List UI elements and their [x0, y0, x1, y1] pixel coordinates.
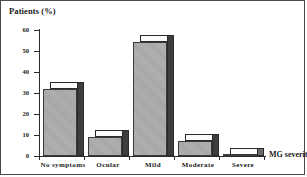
y-tick	[34, 135, 39, 136]
bar-side-face	[122, 130, 129, 156]
x-tick	[174, 156, 175, 160]
x-category-label-moderate: Moderate	[182, 161, 214, 169]
bar-side-face	[167, 35, 174, 156]
bar-moderate	[178, 134, 212, 156]
x-category-label-mild: Mild	[145, 161, 161, 169]
bar-front-face	[178, 141, 212, 156]
x-tick	[264, 156, 265, 160]
y-tick-label: 0	[13, 153, 29, 159]
bar-front-face	[133, 42, 167, 156]
y-tick	[34, 93, 39, 94]
bar-no-symptoms	[43, 82, 77, 156]
x-tick	[129, 156, 130, 160]
bar-front-face	[43, 89, 77, 156]
y-tick-label: 30	[13, 90, 29, 96]
chart-figure: Patients (%) 0 10 20 30 40 50 60	[0, 0, 305, 175]
y-tick-label: 10	[13, 132, 29, 138]
y-tick	[34, 30, 39, 31]
y-tick	[34, 72, 39, 73]
y-tick-label: 40	[13, 69, 29, 75]
bar-front-face	[223, 154, 257, 156]
x-tick	[84, 156, 85, 160]
x-category-label-severe: Severe	[232, 161, 254, 169]
bar-side-face	[257, 148, 264, 156]
y-axis-line	[39, 29, 40, 157]
plot-area: 0 10 20 30 40 50 60	[1, 1, 306, 176]
y-tick	[34, 114, 39, 115]
x-tick	[219, 156, 220, 160]
x-axis-line	[39, 156, 266, 157]
y-tick-label: 50	[13, 48, 29, 54]
x-axis-title: MG severity	[269, 150, 307, 159]
x-tick	[39, 156, 40, 160]
bar-ocular	[88, 130, 122, 156]
x-category-label-ocular: Ocular	[96, 161, 119, 169]
bar-side-face	[212, 134, 219, 156]
y-tick	[34, 51, 39, 52]
bar-front-face	[88, 137, 122, 156]
bar-mild	[133, 35, 167, 156]
y-tick-label: 20	[13, 111, 29, 117]
bar-severe	[223, 148, 257, 156]
y-tick-label: 60	[13, 27, 29, 33]
x-category-label-no-symptoms: No symptoms	[40, 161, 85, 169]
bar-side-face	[77, 82, 84, 156]
